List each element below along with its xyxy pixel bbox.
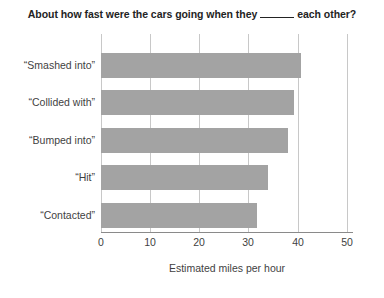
x-tick-label-10: 10 [130, 236, 170, 248]
x-tick-label-50: 50 [327, 236, 367, 248]
plot-area [101, 34, 348, 232]
gridline-50 [347, 34, 348, 232]
fill-in-blank-line [260, 8, 294, 18]
x-tick-label-40: 40 [278, 236, 318, 248]
category-label-bumped-into: “Bumped into” [0, 134, 95, 146]
chart-title-text-before: About how fast were the cars going when … [28, 8, 257, 20]
chart-title: About how fast were the cars going when … [0, 8, 384, 20]
x-tick-label-30: 30 [228, 236, 268, 248]
bar-hit [101, 165, 268, 190]
x-tick-label-0: 0 [81, 236, 121, 248]
bar-contacted [101, 203, 257, 228]
bar-chart-figure: About how fast were the cars going when … [0, 0, 384, 298]
category-label-contacted: “Contacted” [0, 209, 95, 221]
x-axis-line [101, 232, 353, 233]
bar-smashed-into [101, 53, 301, 78]
bar-bumped-into [101, 128, 288, 153]
x-tick-label-20: 20 [179, 236, 219, 248]
category-label-smashed-into: “Smashed into” [0, 59, 95, 71]
bar-collided-with [101, 90, 294, 115]
category-label-collided-with: “Collided with” [0, 96, 95, 108]
chart-title-text-after: each other? [297, 8, 356, 20]
category-label-hit: “Hit” [0, 171, 95, 183]
x-axis-title: Estimated miles per hour [101, 262, 353, 274]
